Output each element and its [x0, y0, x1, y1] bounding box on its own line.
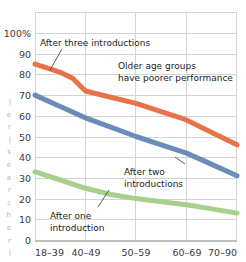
y-tick-70: 70 [19, 90, 31, 101]
x-tick-1: 40–49 [72, 247, 101, 258]
y-tick-0: 0 [25, 235, 31, 246]
edge-fragment: s [0, 146, 12, 159]
edge-fragment: e [0, 222, 12, 235]
y-tick-30: 30 [19, 173, 31, 184]
x-tick-0: 18–39 [35, 247, 64, 258]
x-tick-4: 70–90 [208, 247, 237, 258]
edge-fragment: r [0, 184, 12, 197]
y-tick-100: 100% [4, 28, 31, 39]
annotation-older-line-1: Older age groups [118, 61, 196, 71]
x-tick-3: 60–69 [173, 247, 202, 258]
edge-fragment: h [0, 209, 12, 222]
annotation-one-line-2: introduction [50, 223, 104, 233]
annotation-after-three-introductions: After three introductions [40, 38, 150, 48]
annotation-two-line-2: introductions [124, 179, 183, 189]
edge-fragment: e [0, 159, 12, 172]
y-tick-60: 60 [19, 111, 31, 122]
edge-fragment: a [0, 172, 12, 185]
y-tick-50: 50 [19, 132, 31, 143]
chart-svg: 100% 90 80 70 60 50 40 30 20 10 0 18–39 … [0, 0, 246, 262]
line-chart: | e r | s e a r c h e r | [0, 0, 246, 262]
edge-fragment: c [0, 197, 12, 210]
y-tick-80: 80 [19, 69, 31, 80]
edge-fragment: e [0, 109, 12, 122]
y-tick-90: 90 [19, 49, 31, 60]
y-tick-10: 10 [19, 214, 31, 225]
y-tick-40: 40 [19, 152, 31, 163]
edge-fragment: r [0, 235, 12, 248]
edge-fragment: | [0, 247, 12, 260]
edge-fragment: | [0, 134, 12, 147]
annotation-two-line-1: After two [124, 167, 165, 177]
left-edge-text-fragments: | e r | s e a r c h e r | [0, 96, 12, 262]
x-axis-labels: 18–39 40–49 50–59 60–69 70–90 [35, 247, 237, 258]
annotation-one-line-1: After one [50, 211, 92, 221]
y-tick-20: 20 [19, 194, 31, 205]
edge-fragment: | [0, 96, 12, 109]
annotation-older-line-2: have poorer performance [118, 73, 233, 83]
x-tick-2: 50–59 [122, 247, 151, 258]
edge-fragment: r [0, 121, 12, 134]
